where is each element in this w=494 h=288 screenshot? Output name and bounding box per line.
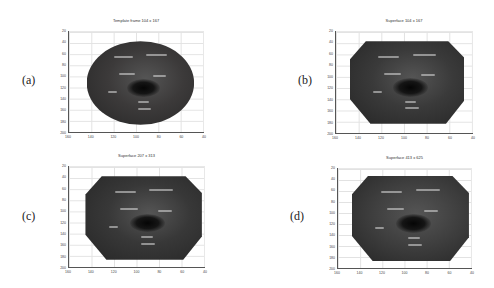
x-tick-label: 40 <box>203 270 207 274</box>
x-tick-label: 40 <box>471 136 475 140</box>
specular-highlight <box>384 73 401 75</box>
specular-highlight <box>405 107 419 109</box>
mouth-region <box>393 78 427 96</box>
plot-axes-c <box>68 166 205 268</box>
y-tick-label: 40 <box>323 177 335 181</box>
y-tick-label: 160 <box>54 108 66 112</box>
x-tick-label: 160 <box>334 271 340 275</box>
panel-title-d: Superface 413 x 625 <box>386 155 423 160</box>
x-tick-label: 120 <box>379 271 385 275</box>
specular-highlight <box>115 191 136 193</box>
x-tick-label: 140 <box>88 270 94 274</box>
x-tick-label: 60 <box>448 136 452 140</box>
specular-highlight <box>141 236 153 238</box>
y-tick-label: 80 <box>321 63 333 67</box>
x-tick-label: 140 <box>357 271 363 275</box>
specular-highlight <box>119 73 135 75</box>
x-tick-label: 120 <box>378 136 384 140</box>
x-tick-label: 160 <box>65 270 71 274</box>
y-tick-label: 100 <box>321 75 333 79</box>
y-tick-label: 120 <box>54 221 66 225</box>
y-tick-label: 40 <box>321 40 333 44</box>
panel-label-d: (d) <box>290 209 304 224</box>
y-tick-label: 160 <box>321 109 333 113</box>
x-tick-label: 80 <box>425 136 429 140</box>
y-tick-label: 160 <box>323 245 335 249</box>
x-tick-label: 160 <box>65 135 71 139</box>
y-tick-label: 180 <box>323 256 335 260</box>
x-tick-label: 140 <box>88 135 94 139</box>
x-tick-label: 100 <box>402 271 408 275</box>
x-tick-label: 100 <box>133 135 139 139</box>
specular-highlight <box>114 56 133 58</box>
x-tick-label: 140 <box>355 136 361 140</box>
specular-highlight <box>120 208 137 210</box>
x-tick-label: 100 <box>134 270 140 274</box>
y-tick-label: 40 <box>54 40 66 44</box>
specular-highlight <box>424 210 438 212</box>
y-tick-label: 80 <box>323 200 335 204</box>
y-tick-label: 140 <box>321 98 333 102</box>
x-tick-label: 80 <box>425 271 429 275</box>
x-tick-label: 60 <box>448 271 452 275</box>
specular-highlight <box>373 91 382 93</box>
specular-highlight <box>408 237 420 239</box>
y-tick-label: 40 <box>54 175 66 179</box>
y-tick-label: 80 <box>54 198 66 202</box>
x-tick-label: 100 <box>401 136 407 140</box>
specular-highlight <box>413 54 436 56</box>
y-tick-label: 60 <box>321 52 333 56</box>
specular-highlight <box>158 210 172 212</box>
y-tick-label: 120 <box>323 222 335 226</box>
x-tick-label: 40 <box>470 271 474 275</box>
y-tick-label: 120 <box>54 86 66 90</box>
plot-axes-a <box>68 31 204 133</box>
y-tick-label: 20 <box>54 29 66 33</box>
y-tick-label: 120 <box>321 86 333 90</box>
x-tick-label: 120 <box>110 135 116 139</box>
specular-highlight <box>375 227 384 229</box>
specular-highlight <box>387 208 405 210</box>
specular-highlight <box>108 91 117 93</box>
y-tick-label: 60 <box>323 188 335 192</box>
specular-highlight <box>149 189 172 191</box>
x-tick-label: 60 <box>180 270 184 274</box>
specular-highlight <box>405 101 416 103</box>
mouth-region <box>396 214 431 233</box>
specular-highlight <box>381 191 402 193</box>
y-tick-label: 80 <box>54 63 66 67</box>
mouth-region <box>130 214 165 232</box>
face-surface-c <box>85 176 201 260</box>
panel-label-c: (c) <box>22 209 35 224</box>
x-tick-label: 80 <box>157 135 161 139</box>
y-tick-label: 140 <box>323 233 335 237</box>
x-tick-label: 80 <box>157 270 161 274</box>
y-tick-label: 20 <box>323 166 335 170</box>
specular-highlight <box>141 243 155 245</box>
y-tick-label: 140 <box>54 232 66 236</box>
x-tick-label: 60 <box>179 135 183 139</box>
y-tick-label: 100 <box>54 209 66 213</box>
y-tick-label: 60 <box>54 187 66 191</box>
face-surface-a <box>87 41 194 125</box>
plot-axes-d <box>337 168 472 269</box>
y-tick-label: 180 <box>321 121 333 125</box>
y-tick-label: 20 <box>54 164 66 168</box>
specular-highlight <box>109 226 118 228</box>
panel-label-a: (a) <box>22 73 35 88</box>
panel-title-c: Superface 207 x 313 <box>118 153 155 158</box>
panel-title-a: Template frame 104 x 167 <box>113 18 159 23</box>
y-tick-label: 180 <box>54 120 66 124</box>
specular-highlight <box>421 74 435 76</box>
specular-highlight <box>138 108 151 110</box>
specular-highlight <box>138 101 149 103</box>
y-tick-label: 140 <box>54 97 66 101</box>
x-tick-label: 40 <box>202 135 206 139</box>
y-tick-label: 180 <box>54 255 66 259</box>
y-tick-label: 60 <box>54 52 66 56</box>
panel-label-b: (b) <box>298 73 312 88</box>
specular-highlight <box>378 56 399 58</box>
y-tick-label: 100 <box>323 211 335 215</box>
y-tick-label: 100 <box>54 74 66 78</box>
specular-highlight <box>153 75 166 77</box>
